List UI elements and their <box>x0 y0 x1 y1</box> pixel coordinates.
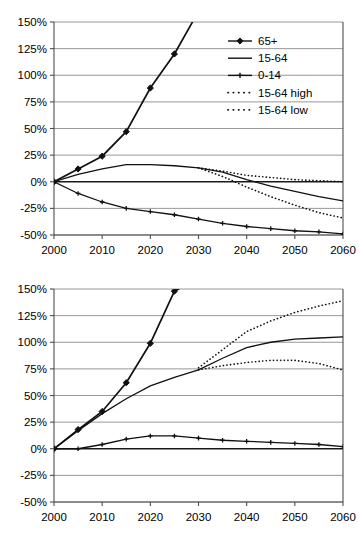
legend-item-label: 0-14 <box>258 69 282 81</box>
data-point-marker <box>293 441 298 446</box>
data-point-marker <box>124 437 129 442</box>
y-tick-label: -50% <box>20 229 47 241</box>
data-point-marker <box>317 442 322 447</box>
y-tick-label: -50% <box>20 496 47 508</box>
x-tick-label: 2030 <box>186 511 212 523</box>
series-path-15-64 <box>54 337 343 449</box>
y-tick-label: 50% <box>24 390 47 402</box>
line-chart-top: 150%125%100%75%50%25%0%-25%-50%200020102… <box>0 0 359 267</box>
y-tick-labels-group: 150%125%100%75%50%25%0%-25%-50% <box>18 283 54 508</box>
data-point-marker <box>172 434 177 439</box>
series-markers-0-14 <box>52 179 346 236</box>
data-point-marker <box>317 230 322 235</box>
legend-item-label: 15-64 <box>258 52 288 64</box>
x-tick-labels-group: 2000201020202030204020502060 <box>41 502 356 523</box>
legend-item-label: 65+ <box>258 35 278 47</box>
data-point-marker <box>293 228 298 233</box>
data-point-marker <box>196 436 201 441</box>
y-tick-label: 125% <box>18 310 47 322</box>
y-tick-label: 100% <box>18 336 47 348</box>
line-chart-bottom: 150%125%100%75%50%25%0%-25%-50%200020102… <box>0 267 359 535</box>
series-path-0-14 <box>54 182 343 234</box>
data-point-marker <box>220 438 225 443</box>
data-point-marker <box>148 434 153 439</box>
y-tick-label: -25% <box>20 202 47 214</box>
data-point-marker <box>196 217 201 222</box>
data-point-marker <box>148 209 153 214</box>
data-point-marker <box>172 212 177 217</box>
data-point-marker <box>220 221 225 226</box>
legend-item[interactable]: 15-64 low <box>228 104 309 116</box>
legend-item[interactable]: 15-64 <box>228 52 288 64</box>
x-tick-label: 2040 <box>234 511 260 523</box>
data-point-marker <box>244 224 249 229</box>
y-tick-label: 100% <box>18 69 47 81</box>
data-point-marker <box>268 440 273 445</box>
data-point-marker <box>244 439 249 444</box>
x-tick-label: 2060 <box>330 244 356 256</box>
y-tick-label: 0% <box>30 443 47 455</box>
legend-item[interactable]: 15-64 high <box>228 87 312 99</box>
population-projection-figure: 150%125%100%75%50%25%0%-25%-50%200020102… <box>0 0 359 535</box>
series-path-15-64 <box>54 165 343 201</box>
y-tick-label: 0% <box>30 176 47 188</box>
y-tick-label: -25% <box>20 469 47 481</box>
data-point-marker <box>100 200 105 205</box>
series-path-65- <box>54 11 199 181</box>
gridlines-group <box>54 289 343 502</box>
x-tick-label: 2050 <box>282 511 308 523</box>
y-tick-label: 75% <box>24 96 47 108</box>
legend-sample-marker <box>237 38 243 44</box>
x-tick-label: 2030 <box>186 244 212 256</box>
y-tick-label: 25% <box>24 149 47 161</box>
x-tick-labels-group: 2000201020202030204020502060 <box>41 235 356 256</box>
gridlines-group <box>54 22 343 235</box>
x-tick-label: 2050 <box>282 244 308 256</box>
series-group <box>51 11 345 236</box>
series-markers-65- <box>51 288 178 452</box>
x-tick-label: 2010 <box>89 511 115 523</box>
series-group <box>51 278 345 452</box>
chart-panel-top: 150%125%100%75%50%25%0%-25%-50%200020102… <box>0 0 359 267</box>
legend-item-label: 15-64 low <box>258 104 309 116</box>
data-point-marker <box>100 442 105 447</box>
y-tick-label: 150% <box>18 283 47 295</box>
data-point-marker <box>124 206 129 211</box>
chart-panel-bottom: 150%125%100%75%50%25%0%-25%-50%200020102… <box>0 267 359 534</box>
data-point-marker <box>76 191 81 196</box>
y-tick-labels-group: 150%125%100%75%50%25%0%-25%-50% <box>18 16 54 241</box>
legend-item[interactable]: 65+ <box>228 35 278 47</box>
x-tick-label: 2060 <box>330 511 356 523</box>
y-tick-label: 150% <box>18 16 47 28</box>
x-tick-label: 2020 <box>138 511 164 523</box>
y-tick-label: 50% <box>24 123 47 135</box>
x-tick-label: 2020 <box>138 244 164 256</box>
x-tick-label: 2040 <box>234 244 260 256</box>
series-path-65- <box>54 278 199 448</box>
x-tick-label: 2010 <box>89 244 115 256</box>
y-tick-label: 25% <box>24 416 47 428</box>
data-point-marker <box>76 446 81 451</box>
series-path-15-64-high <box>199 168 344 182</box>
y-tick-label: 125% <box>18 43 47 55</box>
series-path-15-64-high <box>199 301 344 368</box>
data-point-marker <box>75 166 81 172</box>
data-point-marker <box>268 226 273 231</box>
x-tick-label: 2000 <box>41 244 67 256</box>
legend-sample-marker <box>237 73 242 78</box>
series-path-15-64-low <box>199 168 344 218</box>
x-tick-label: 2000 <box>41 511 67 523</box>
legend-item-label: 15-64 high <box>258 87 312 99</box>
y-tick-label: 75% <box>24 363 47 375</box>
